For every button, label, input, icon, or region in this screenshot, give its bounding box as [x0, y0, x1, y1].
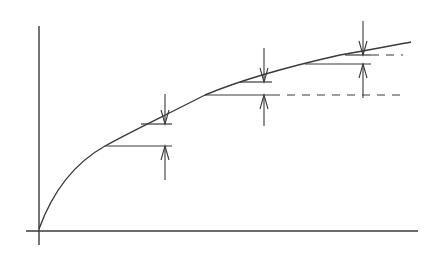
- axes: [26, 26, 418, 245]
- step-intervals: [105, 21, 405, 180]
- step-interval-2: [205, 48, 405, 126]
- step-interval-1: [105, 94, 172, 180]
- diagram-svg: [0, 0, 438, 256]
- diagram-canvas: [0, 0, 438, 256]
- curve: [39, 42, 411, 229]
- growth-curve: [39, 42, 411, 229]
